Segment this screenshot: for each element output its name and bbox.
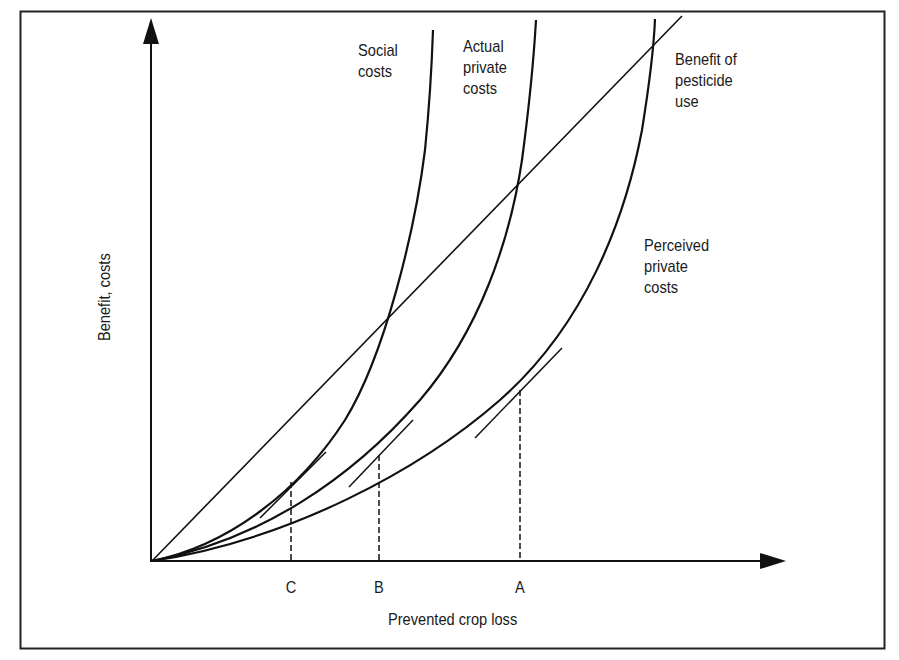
tick-label-c: C [286,578,297,598]
perceived-private-costs-label: Perceived private costs [644,235,709,298]
y-axis-arrowhead [143,18,159,44]
benefit-of-pesticide-use-label: Benefit of pesticide use [675,49,737,112]
x-axis-title: Prevented crop loss [388,609,517,630]
tangent-line-a [475,348,562,438]
social-costs-label: Social costs [358,40,398,82]
social-costs-curve [152,30,433,561]
x-axis-arrowhead [760,553,786,569]
tick-label-a: A [515,578,525,598]
perceived-private-costs-curve [152,19,655,561]
tick-label-b: B [374,578,384,598]
pesticide-cost-benefit-diagram [0,0,899,660]
benefit-line [152,16,682,561]
tangent-line-b [349,420,413,487]
actual-private-costs-curve [152,20,536,561]
y-axis-title: Benefit, costs [95,253,115,341]
actual-private-costs-label: Actual private costs [463,36,507,99]
